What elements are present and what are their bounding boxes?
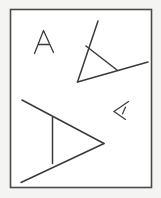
sketch-canvas xyxy=(0,0,161,198)
drawing-frame xyxy=(11,10,152,188)
sketch-svg xyxy=(0,0,161,198)
